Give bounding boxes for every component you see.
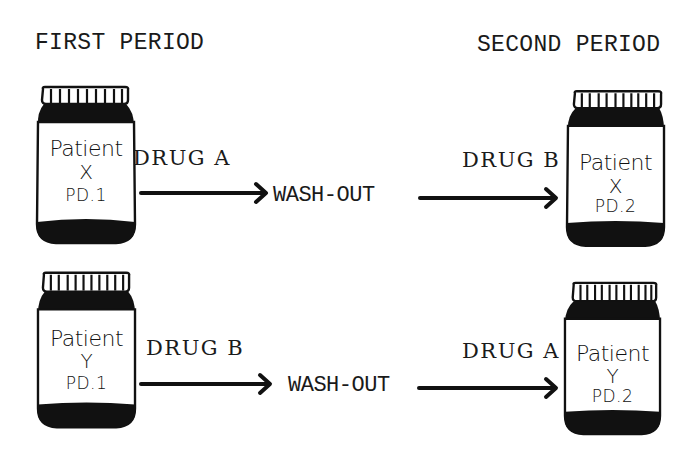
- bottle-patient-label: Patient: [564, 343, 661, 365]
- bottle-patient-id: X: [36, 162, 136, 182]
- arrow-right-icon: [140, 182, 270, 204]
- arrow-row1-to-washout: [140, 182, 270, 204]
- bottle-period-label: PD.1: [37, 375, 136, 392]
- washout-label-row2: WASH-OUT: [288, 375, 390, 397]
- bottle-patient-label: Patient: [37, 328, 136, 350]
- bottle-period-label: PD.1: [36, 187, 136, 204]
- bottle-patient-id: Y: [37, 351, 136, 371]
- washout-label-row1: WASH-OUT: [273, 185, 375, 207]
- bottle-patient-id: X: [566, 176, 665, 196]
- drug-label-row1-first: DRUG A: [133, 148, 231, 169]
- bottle-patient-label: Patient: [36, 138, 136, 160]
- arrow-row2-to-second-period: [418, 377, 560, 399]
- arrow-right-icon: [140, 373, 274, 395]
- bottle-patient-label: Patient: [566, 152, 665, 174]
- arrow-right-icon: [418, 377, 560, 399]
- drug-label-row1-second: DRUG B: [462, 150, 560, 171]
- bottle-patient-x-period-1: Patient X PD.1: [36, 86, 136, 244]
- bottle-patient-id: Y: [564, 366, 661, 386]
- bottle-period-label: PD.2: [564, 388, 661, 405]
- bottle-patient-y-period-2: Patient Y PD.2: [564, 280, 661, 437]
- drug-label-row2-first: DRUG B: [146, 338, 244, 359]
- bottle-patient-y-period-1: Patient Y PD.1: [37, 271, 136, 429]
- arrow-right-icon: [419, 187, 559, 209]
- second-period-header: SECOND PERIOD: [477, 34, 660, 57]
- arrow-row2-to-washout: [140, 373, 274, 395]
- bottle-patient-x-period-2: Patient X PD.2: [566, 90, 665, 247]
- drug-label-row2-second: DRUG A: [462, 341, 560, 362]
- arrow-row1-to-second-period: [419, 187, 559, 209]
- first-period-header: FIRST PERIOD: [35, 32, 204, 55]
- bottle-period-label: PD.2: [566, 198, 665, 215]
